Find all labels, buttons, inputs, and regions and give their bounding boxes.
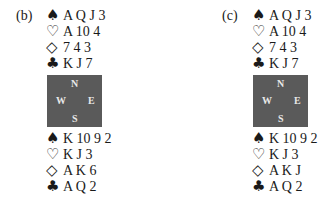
hearts-cards: K J 3 xyxy=(63,147,93,162)
diamonds-row: ◇7 4 3 xyxy=(252,39,311,55)
heart-icon: ♡ xyxy=(46,23,63,39)
clubs-row: ♣A Q 2 xyxy=(46,178,112,194)
clubs-cards: A Q 2 xyxy=(63,179,96,194)
compass-north: N xyxy=(277,78,284,89)
south-hand: ♠K 10 9 2 ♡K J 3 ◇A K J ♣A Q 2 xyxy=(252,130,318,194)
diamond-icon: ◇ xyxy=(252,162,269,178)
club-icon: ♣ xyxy=(252,55,269,71)
south-hand: ♠K 10 9 2 ♡K J 3 ◇A K 6 ♣A Q 2 xyxy=(46,130,112,194)
diamonds-row: ◇7 4 3 xyxy=(46,39,105,55)
spades-cards: A Q J 3 xyxy=(63,8,105,23)
spades-row: ♠A Q J 3 xyxy=(46,7,105,23)
heart-icon: ♡ xyxy=(252,146,269,162)
compass-box: N W E S xyxy=(47,75,102,127)
spades-cards: K 10 9 2 xyxy=(269,131,318,146)
deal-label: (b) xyxy=(16,8,32,24)
clubs-row: ♣K J 7 xyxy=(252,55,311,71)
spades-row: ♠K 10 9 2 xyxy=(252,130,318,146)
compass-south: S xyxy=(278,113,284,124)
spades-row: ♠K 10 9 2 xyxy=(46,130,112,146)
diamond-icon: ◇ xyxy=(252,39,269,55)
heart-icon: ♡ xyxy=(252,23,269,39)
diamond-icon: ◇ xyxy=(46,162,63,178)
clubs-cards: K J 7 xyxy=(269,56,299,71)
club-icon: ♣ xyxy=(46,55,63,71)
spades-cards: A Q J 3 xyxy=(269,8,311,23)
clubs-row: ♣K J 7 xyxy=(46,55,105,71)
hearts-row: ♡K J 3 xyxy=(252,146,318,162)
spades-row: ♠A Q J 3 xyxy=(252,7,311,23)
compass-west: W xyxy=(56,95,66,106)
hearts-row: ♡K J 3 xyxy=(46,146,112,162)
spade-icon: ♠ xyxy=(252,130,269,146)
compass-box: N W E S xyxy=(253,75,308,127)
diamonds-cards: 7 4 3 xyxy=(269,40,297,55)
diamonds-cards: A K J xyxy=(269,163,301,178)
clubs-cards: K J 7 xyxy=(63,56,93,71)
hearts-cards: A 10 4 xyxy=(63,24,100,39)
heart-icon: ♡ xyxy=(46,146,63,162)
club-icon: ♣ xyxy=(46,178,63,194)
diamonds-cards: 7 4 3 xyxy=(63,40,91,55)
spades-cards: K 10 9 2 xyxy=(63,131,112,146)
clubs-row: ♣A Q 2 xyxy=(252,178,318,194)
diamond-icon: ◇ xyxy=(46,39,63,55)
north-hand: ♠A Q J 3 ♡A 10 4 ◇7 4 3 ♣K J 7 xyxy=(46,7,105,71)
compass-east: E xyxy=(88,95,95,106)
hearts-cards: A 10 4 xyxy=(269,24,306,39)
spade-icon: ♠ xyxy=(252,7,269,23)
compass-north: N xyxy=(71,78,78,89)
compass-east: E xyxy=(294,95,301,106)
diamonds-cards: A K 6 xyxy=(63,163,96,178)
hearts-row: ♡A 10 4 xyxy=(46,23,105,39)
deal-label: (c) xyxy=(222,8,238,24)
hearts-cards: K J 3 xyxy=(269,147,299,162)
spade-icon: ♠ xyxy=(46,130,63,146)
diamonds-row: ◇A K 6 xyxy=(46,162,112,178)
club-icon: ♣ xyxy=(252,178,269,194)
north-hand: ♠A Q J 3 ♡A 10 4 ◇7 4 3 ♣K J 7 xyxy=(252,7,311,71)
diamonds-row: ◇A K J xyxy=(252,162,318,178)
hearts-row: ♡A 10 4 xyxy=(252,23,311,39)
clubs-cards: A Q 2 xyxy=(269,179,302,194)
compass-south: S xyxy=(72,113,78,124)
spade-icon: ♠ xyxy=(46,7,63,23)
compass-west: W xyxy=(262,95,272,106)
